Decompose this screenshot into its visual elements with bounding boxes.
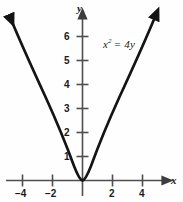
y-axis-label: y: [77, 3, 82, 14]
y-tick-label-1: 1: [64, 152, 70, 162]
equation-annotation: x2= 4y: [103, 37, 135, 50]
y-tick-label-6: 6: [64, 32, 70, 42]
equation-exponent: 2: [108, 37, 112, 45]
x-tick-label-4: 4: [139, 189, 145, 199]
y-tick-label-4: 4: [64, 80, 70, 90]
x-tick-label--2: −2: [45, 189, 56, 199]
equation-remainder: = 4y: [114, 38, 135, 50]
y-axis: [77, 18, 89, 196]
y-tick-label-3: 3: [64, 104, 70, 114]
x-tick-label-2: 2: [109, 189, 115, 199]
x-tick-label--4: −4: [15, 189, 26, 199]
x-axis-label: x: [171, 175, 177, 186]
y-tick-label-5: 5: [64, 56, 70, 66]
plot-canvas: [0, 0, 183, 202]
parabola-figure: −4 −2 2 4 1 2 3 4 5 6 x y x2= 4y: [0, 0, 183, 202]
y-tick-label-2: 2: [64, 128, 70, 138]
